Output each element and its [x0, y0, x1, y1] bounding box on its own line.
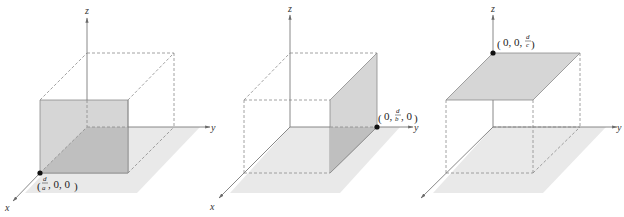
panel-z-intercept: z y ( 0, 0, d c ) — [421, 3, 622, 198]
z-axis-label: z — [84, 5, 89, 16]
svg-text:): ) — [531, 38, 535, 51]
x-axis-label: x — [209, 201, 215, 212]
x-axis-label: x — [4, 202, 10, 213]
point-label: ( 0, d b , 0 ) — [378, 107, 418, 125]
panel-y-intercept: z x y ( 0, d b , 0 ) — [209, 3, 419, 212]
z-axis-label: z — [287, 3, 292, 14]
svg-text:a: a — [42, 184, 46, 192]
svg-text:(: ( — [497, 38, 501, 51]
svg-text:): ) — [74, 180, 78, 193]
plane-z-const — [446, 53, 580, 100]
intercept-point — [490, 50, 495, 55]
z-axis-label: z — [490, 3, 495, 14]
svg-text:d: d — [396, 107, 400, 115]
svg-text:0,: 0, — [384, 110, 393, 122]
svg-text:d: d — [526, 33, 530, 41]
intercept-point — [37, 170, 42, 175]
panel-x-intercept: z x y ( d a , 0, 0 ) — [4, 5, 216, 213]
svg-text:d: d — [43, 175, 47, 183]
three-plane-diagrams: z x y ( d a , 0, 0 ) z x y — [0, 0, 624, 217]
point-label: ( 0, 0, d c ) — [497, 33, 535, 51]
y-axis-label: y — [210, 122, 216, 133]
xy-floor — [230, 127, 400, 193]
svg-text:, 0, 0: , 0, 0 — [48, 178, 71, 190]
svg-text:b: b — [395, 115, 399, 123]
svg-text:, 0: , 0 — [401, 110, 413, 122]
svg-text:(: ( — [378, 112, 382, 125]
svg-text:c: c — [526, 41, 530, 49]
svg-text:(: ( — [37, 180, 41, 193]
svg-text:0, 0,: 0, 0, — [503, 36, 523, 48]
y-axis-label: y — [616, 122, 622, 133]
intercept-point — [374, 124, 379, 129]
svg-text:): ) — [414, 112, 418, 125]
